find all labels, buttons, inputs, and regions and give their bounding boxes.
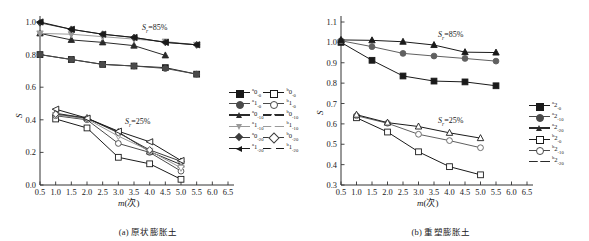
legend-marker-icon xyxy=(529,101,550,110)
legend-marker-icon xyxy=(229,88,250,97)
legend-item[interactable]: a2-20 xyxy=(529,122,589,133)
x-tick-label: 4.5 xyxy=(460,188,470,197)
y-tick-label: 0.4 xyxy=(327,161,338,170)
x-tick-label: 2.0 xyxy=(382,188,392,197)
legend-item-label: b2-0 xyxy=(550,134,561,144)
panel-caption-a: (a) 原状膨胀土 xyxy=(0,225,296,237)
x-tick-label: 2.0 xyxy=(82,188,92,197)
legend-item-label: a2-10 xyxy=(550,112,563,122)
legend-marker-icon xyxy=(263,144,284,153)
x-tick-label: 1.0 xyxy=(351,188,361,197)
data-series xyxy=(37,52,199,77)
y-tick-label: 1.0 xyxy=(26,18,36,27)
x-tick-label: 2.5 xyxy=(97,188,107,197)
y-tick-label: 0.7 xyxy=(327,100,337,109)
series-line xyxy=(40,22,197,45)
data-point-marker xyxy=(146,139,153,145)
legend-item[interactable]: a0-0 xyxy=(229,87,263,98)
x-tick-label: 1.0 xyxy=(50,188,60,197)
sr-25-annotation-b: Sr=25% xyxy=(438,116,463,127)
x-tick-label: 6.5 xyxy=(223,188,233,197)
legend-marker-icon xyxy=(229,99,250,108)
series-line xyxy=(40,55,197,75)
sr-85-annotation-a: Sr=85% xyxy=(142,23,167,34)
legend-a[interactable]: a0-0a1-0a0-10a1-10a0-20a1-20b0-0b1-0b0-1… xyxy=(229,87,299,154)
legend-marker-icon xyxy=(229,133,250,142)
legend-item[interactable]: a2-10 xyxy=(529,111,589,122)
legend-item-label: a1-10 xyxy=(250,121,263,131)
y-tick-label: 0.6 xyxy=(327,120,337,129)
legend-marker-icon xyxy=(229,144,250,153)
legend-marker-icon xyxy=(263,122,284,131)
legend-item-label: a1-0 xyxy=(250,99,261,109)
x-tick-label: 4.0 xyxy=(444,188,454,197)
data-point-marker xyxy=(416,131,422,137)
data-point-marker xyxy=(131,63,137,69)
data-point-marker xyxy=(194,71,200,77)
data-point-marker xyxy=(369,57,375,63)
x-axis-label-a: m(次) xyxy=(118,196,140,209)
data-series xyxy=(53,113,184,174)
data-point-marker xyxy=(115,154,121,160)
y-tick-label: 1.1 xyxy=(327,18,337,27)
x-tick-label: 4.0 xyxy=(144,188,154,197)
x-tick-label: 6.0 xyxy=(207,188,217,197)
legend-item[interactable]: b2-20 xyxy=(529,156,589,167)
y-tick-label: 0.5 xyxy=(327,140,337,149)
data-point-marker xyxy=(478,145,484,151)
data-series xyxy=(338,39,499,88)
legend-marker-icon xyxy=(263,99,284,108)
legend-marker-icon xyxy=(529,146,550,155)
data-series xyxy=(37,31,200,48)
legend-marker-icon xyxy=(529,135,550,144)
legend-item[interactable]: a1-20 xyxy=(229,143,263,154)
x-tick-label: 1.5 xyxy=(367,188,377,197)
y-tick-label: 0.4 xyxy=(26,116,37,125)
legend-item[interactable]: a1-0 xyxy=(229,98,263,109)
legend-item-label: a0-20 xyxy=(250,132,263,142)
x-axis-label-b: m(次) xyxy=(417,196,439,209)
axes: 0.30.40.50.60.70.80.91.01.10.51.01.52.02… xyxy=(327,16,533,197)
x-tick-label: 2.5 xyxy=(398,188,408,197)
y-axis-label-b: S xyxy=(315,111,325,116)
data-point-marker xyxy=(431,53,437,59)
legend-marker-icon xyxy=(529,123,550,132)
series-line xyxy=(341,42,496,85)
x-tick-label: 5.0 xyxy=(176,188,186,197)
x-tick-label: 0.5 xyxy=(336,188,346,197)
x-tick-label: 0.5 xyxy=(35,188,45,197)
legend-marker-icon xyxy=(263,110,284,119)
legend-item[interactable]: b2-10 xyxy=(529,145,589,156)
legend-marker-icon xyxy=(229,122,250,131)
x-tick-label: 5.5 xyxy=(191,188,201,197)
legend-marker-icon xyxy=(263,133,284,142)
legend-item[interactable]: a2-0 xyxy=(529,100,589,111)
legend-item[interactable]: a0-20 xyxy=(229,132,263,143)
series-line xyxy=(341,40,496,53)
panel-caption-b: (b) 重塑膨胀土 xyxy=(293,225,589,237)
x-tick-label: 6.5 xyxy=(522,188,532,197)
legend-item[interactable]: b2-0 xyxy=(529,134,589,145)
data-point-marker xyxy=(100,61,106,67)
data-point-marker xyxy=(115,141,121,147)
y-tick-label: 0.8 xyxy=(327,79,337,88)
legend-item-label: a0-10 xyxy=(250,110,263,120)
x-tick-label: 5.5 xyxy=(491,188,501,197)
data-point-marker xyxy=(400,50,406,56)
chart-panel-b: 0.30.40.50.60.70.80.91.01.10.51.01.52.02… xyxy=(293,0,589,241)
data-point-marker xyxy=(37,52,43,58)
legend-item[interactable]: a0-10 xyxy=(229,109,263,120)
legend-item-label: a2-0 xyxy=(550,101,561,111)
data-point-marker xyxy=(447,164,453,170)
y-tick-label: 0.6 xyxy=(26,83,36,92)
legend-b[interactable]: a2-0a2-10a2-20b2-0b2-10b2-20 xyxy=(529,100,589,167)
legend-item[interactable]: a1-10 xyxy=(229,121,263,132)
series-line xyxy=(40,55,197,75)
legend-item-label: b2-10 xyxy=(550,145,564,155)
legend-item-label: a0-0 xyxy=(250,88,261,98)
data-point-marker xyxy=(462,56,468,62)
y-tick-label: 0.2 xyxy=(26,148,36,157)
data-point-marker xyxy=(178,176,184,182)
legend-item-label: a1-20 xyxy=(250,143,263,153)
x-tick-label: 4.5 xyxy=(160,188,170,197)
